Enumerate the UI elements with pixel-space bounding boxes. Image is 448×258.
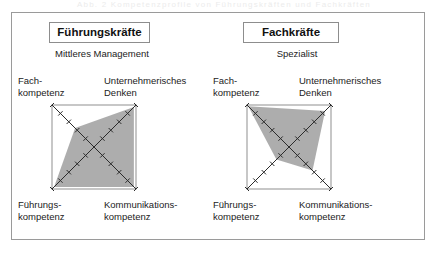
- axis-label-fachkompetenz-left: Fach- kompetenz: [18, 75, 64, 98]
- panel-title-box-fachkraefte: Fachkräfte: [243, 22, 339, 43]
- panel-fachkraefte: Fachkräfte Spezialist Fach- kompetenz Un…: [210, 13, 410, 241]
- axis-label-fachkompetenz-right: Fach- kompetenz: [213, 75, 259, 98]
- axis-label-kommunikationskompetenz-right: Kommunikations- kompetenz: [299, 199, 372, 222]
- panel-subtitle-fuehrungskraefte: Mittleres Management: [2, 48, 202, 60]
- panel-title-box-fuehrungskraefte: Führungskräfte: [49, 22, 150, 43]
- panel-fuehrungskraefte: Führungskräfte Mittleres Management Fach…: [15, 13, 215, 241]
- axis-label-fuehrungskompetenz-right: Führungs- kompetenz: [213, 199, 259, 222]
- figure-caption-ghost: Abb. 2 Kompetenzprofile von Führungskräf…: [0, 0, 448, 9]
- axis-label-unternehmerisches-denken-right: Unternehmerisches Denken: [299, 75, 381, 98]
- radar-chart-fuehrungskraefte: [50, 103, 138, 191]
- panel-subtitle-fachkraefte: Spezialist: [197, 48, 397, 60]
- axis-label-fuehrungskompetenz-left: Führungs- kompetenz: [18, 199, 64, 222]
- axis-label-kommunikationskompetenz-left: Kommunikations- kompetenz: [104, 199, 177, 222]
- figure-frame: Führungskräfte Mittleres Management Fach…: [11, 12, 425, 240]
- radar-chart-fachkraefte: [245, 103, 333, 191]
- axis-label-unternehmerisches-denken-left: Unternehmerisches Denken: [104, 75, 186, 98]
